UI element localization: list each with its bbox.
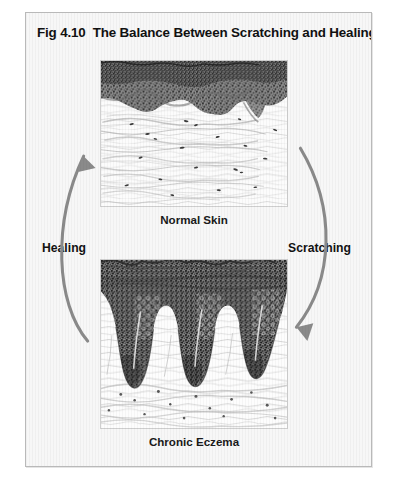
figure-title-text: The Balance Between Scratching and Heali… <box>93 25 372 40</box>
panel-chronic-eczema <box>100 259 288 429</box>
caption-normal-skin: Normal Skin <box>100 213 288 226</box>
figure-number: Fig 4.10 <box>37 25 86 40</box>
panel-normal-skin <box>100 60 288 207</box>
label-healing: Healing <box>42 241 86 255</box>
label-scratching: Scratching <box>288 241 351 255</box>
figure-title: Fig 4.10The Balance Between Scratching a… <box>37 25 363 40</box>
normal-skin-histology-illustration <box>101 61 287 206</box>
chronic-eczema-histology-illustration <box>101 260 287 428</box>
caption-chronic-eczema: Chronic Eczema <box>100 435 288 448</box>
figure-frame: Fig 4.10The Balance Between Scratching a… <box>25 12 372 467</box>
